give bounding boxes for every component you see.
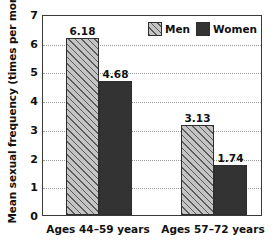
y-axis-tick-labels: 01234567 [22, 0, 38, 246]
bar-value-label: 3.13 [173, 113, 222, 124]
bar-chart: Mean sexual frequency (times per month) … [0, 0, 276, 246]
bar-value-label: 1.74 [206, 153, 255, 164]
legend-entry-women: Women [196, 22, 257, 36]
x-axis-category-labels: Ages 44–59 yearsAges 57–72 years [42, 222, 262, 240]
y-axis-tick-label: 7 [22, 10, 38, 21]
y-axis-tick-label: 4 [22, 96, 38, 107]
legend-swatch-men-icon [148, 22, 162, 36]
plot-area: 6.184.683.131.74 [42, 15, 262, 216]
bar-value-label: 4.68 [91, 69, 140, 80]
y-axis-tick-label: 0 [22, 211, 38, 222]
bars-layer: 6.184.683.131.74 [43, 16, 261, 215]
y-axis-tick-label: 2 [22, 154, 38, 165]
legend-label-women: Women [213, 23, 257, 35]
y-axis-tick-label: 6 [22, 39, 38, 50]
x-axis-category-label: Ages 44–59 years [38, 222, 158, 236]
y-axis-title: Mean sexual frequency (times per month) [4, 9, 20, 224]
legend-swatch-women-icon [196, 22, 210, 36]
bar-women-group-1 [214, 165, 247, 215]
bar-men-group-0 [66, 38, 99, 215]
y-axis-tick-label: 3 [22, 125, 38, 136]
legend: Men Women [146, 19, 259, 38]
bar-men-group-1 [181, 125, 214, 215]
y-axis-tick-label: 1 [22, 182, 38, 193]
bar-women-group-0 [99, 81, 132, 215]
x-axis-category-label: Ages 57–72 years [153, 222, 273, 236]
y-axis-tick-label: 5 [22, 67, 38, 78]
legend-label-men: Men [165, 23, 190, 35]
legend-entry-men: Men [148, 22, 190, 36]
bar-value-label: 6.18 [58, 26, 107, 37]
